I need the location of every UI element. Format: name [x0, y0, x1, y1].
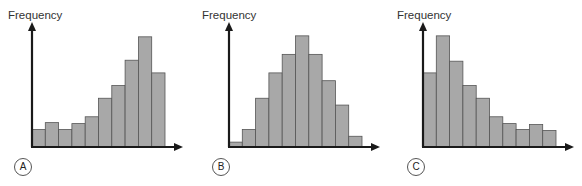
histogram-bar	[309, 54, 322, 147]
histogram-bar	[138, 37, 151, 147]
histogram-c: Frequency C	[388, 0, 582, 186]
histogram-bar	[242, 129, 255, 147]
histogram-bar	[349, 136, 362, 147]
histogram-bar	[45, 123, 58, 147]
histogram-bar	[423, 73, 436, 147]
histogram-b: Frequency B	[194, 0, 388, 186]
histogram-bar	[32, 129, 45, 147]
histogram-bar	[529, 125, 542, 147]
plot-area	[0, 0, 194, 186]
histogram-bar	[436, 36, 449, 147]
y-axis-arrow-icon	[28, 22, 36, 31]
histogram-bar	[282, 54, 295, 147]
panel-badge: B	[212, 158, 230, 176]
histogram-bar	[463, 86, 476, 147]
panel-badge: C	[407, 158, 425, 176]
histogram-bar	[543, 130, 556, 147]
histogram-bar	[59, 129, 72, 147]
histogram-bar	[112, 86, 125, 147]
panel-badge: A	[14, 158, 32, 176]
histogram-bar	[450, 61, 463, 147]
histogram-bar	[296, 36, 309, 147]
histogram-bar	[152, 73, 165, 147]
histogram-bar	[503, 124, 516, 147]
histogram-a: Frequency A	[0, 0, 194, 186]
histogram-bar	[72, 124, 85, 147]
histogram-bar	[322, 81, 335, 147]
y-axis-arrow-icon	[419, 22, 427, 31]
x-axis-arrow-icon	[565, 143, 574, 151]
histogram-bar	[516, 129, 529, 147]
histogram-bar	[335, 105, 348, 147]
histogram-bar	[85, 117, 98, 147]
histogram-bar	[269, 73, 282, 147]
x-axis-arrow-icon	[174, 143, 183, 151]
histogram-bar	[256, 98, 269, 147]
histogram-bar	[490, 117, 503, 147]
histogram-bar	[125, 60, 138, 147]
histogram-bar	[476, 98, 489, 147]
histogram-bar	[99, 98, 112, 147]
y-axis-arrow-icon	[225, 22, 233, 31]
x-axis-arrow-icon	[371, 143, 380, 151]
